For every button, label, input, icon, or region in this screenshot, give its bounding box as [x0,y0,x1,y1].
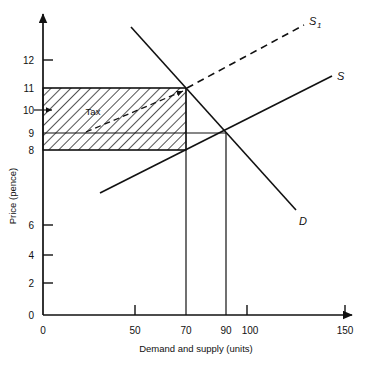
y-tick-label-9: 9 [28,128,34,139]
y-tick-label-2: 2 [28,278,34,289]
x-axis-ticks [135,305,345,315]
x-tick-label-90: 90 [220,325,232,336]
y-tick-label-8: 8 [28,145,34,156]
x-tick-label-150: 150 [337,325,354,336]
x-tick-label-100: 100 [242,325,259,336]
y-tick-label-10: 10 [23,105,35,116]
x-tick-label-50: 50 [129,325,141,336]
y-tick-label-0: 0 [28,310,34,321]
supply-demand-tax-chart: D S S 1 0 2 4 6 [0,0,366,366]
axes [43,14,352,315]
y-tick-label-4: 4 [28,250,34,261]
y-axis-tick-labels: 0 2 4 6 8 9 10 11 12 [23,55,35,321]
y-axis-title: Price (pence) [7,168,18,225]
supply-curve-label: S [337,70,345,82]
shifted-supply-curve-line [187,25,304,88]
shifted-supply-curve-sublabel: 1 [317,21,321,30]
y-tick-label-6: 6 [28,220,34,231]
tax-region-fill [43,88,186,150]
chart-canvas: D S S 1 0 2 4 6 [0,0,366,366]
demand-curve-label: D [299,215,307,227]
x-tick-label-70: 70 [180,325,192,336]
y-tick-label-11: 11 [24,83,35,94]
x-tick-label-0: 0 [40,325,46,336]
x-axis-title: Demand and supply (units) [139,343,253,354]
y-tick-label-12: 12 [23,55,35,66]
tax-label: Tax [86,106,101,117]
tax-shaded-region [43,88,186,150]
shifted-supply-curve-label: S [309,15,317,27]
x-axis-tick-labels: 0 50 70 90 100 150 [40,325,354,336]
shifted-supply-curve: S 1 [187,15,321,88]
